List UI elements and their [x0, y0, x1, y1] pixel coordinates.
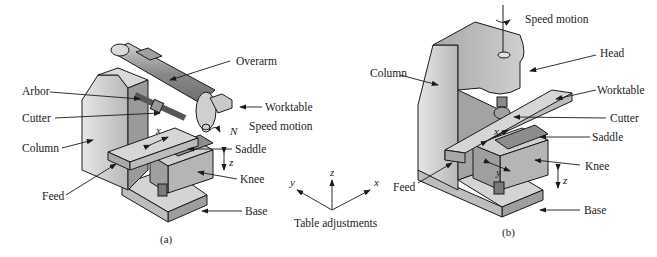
figure-b-vertical-mill: Speed motion Head Column Worktable Cutte… [370, 5, 645, 239]
milling-machines-diagram: Overarm Arbor Cutter Worktable Speed mot… [0, 0, 657, 257]
label-column-b: Column [370, 67, 407, 79]
label-saddle-a: Saddle [235, 143, 266, 155]
head-leader [530, 55, 596, 71]
speed-rotation-arrow-a [210, 127, 220, 132]
axis-label-y: y [289, 176, 295, 188]
label-cutter-b: Cutter [610, 112, 639, 124]
table-adjustments-axes: z y x Table adjustments [289, 166, 379, 230]
figure-a-horizontal-mill: Overarm Arbor Cutter Worktable Speed mot… [22, 43, 313, 246]
axes-title: Table adjustments [294, 217, 378, 230]
axis-label-x: x [373, 176, 379, 188]
label-speed-motion-a: Speed motion [249, 120, 313, 133]
label-feed-a: Feed [42, 190, 65, 202]
label-speed-motion-b: Speed motion [525, 13, 589, 26]
label-saddle-b: Saddle [592, 131, 623, 143]
label-overarm: Overarm [236, 55, 277, 67]
label-base-b: Base [584, 204, 606, 216]
label-speed-symbol: N [229, 125, 238, 137]
label-axis-y-b: y [495, 166, 501, 178]
column-a [82, 68, 148, 190]
spindle-b [497, 97, 507, 107]
y-axis-arrow [297, 190, 332, 210]
label-axis-z-b: z [562, 174, 568, 186]
label-knee-a: Knee [240, 173, 264, 185]
label-column-a: Column [22, 142, 59, 154]
x-axis-arrow [332, 190, 370, 210]
label-arbor: Arbor [22, 85, 50, 97]
label-head: Head [600, 47, 625, 59]
label-knee-b: Knee [585, 160, 609, 172]
label-axis-x-a: x [155, 124, 161, 136]
caption-b: (b) [502, 226, 515, 239]
axis-label-z: z [329, 166, 335, 178]
label-worktable-a: Worktable [265, 101, 313, 113]
label-axis-z-a: z [228, 156, 234, 168]
caption-a: (a) [160, 233, 173, 246]
label-cutter-a: Cutter [22, 112, 51, 124]
label-worktable-b: Worktable [597, 84, 645, 96]
label-base-a: Base [245, 205, 267, 217]
label-axis-x-b: x [493, 125, 499, 137]
label-feed-b: Feed [393, 181, 416, 193]
